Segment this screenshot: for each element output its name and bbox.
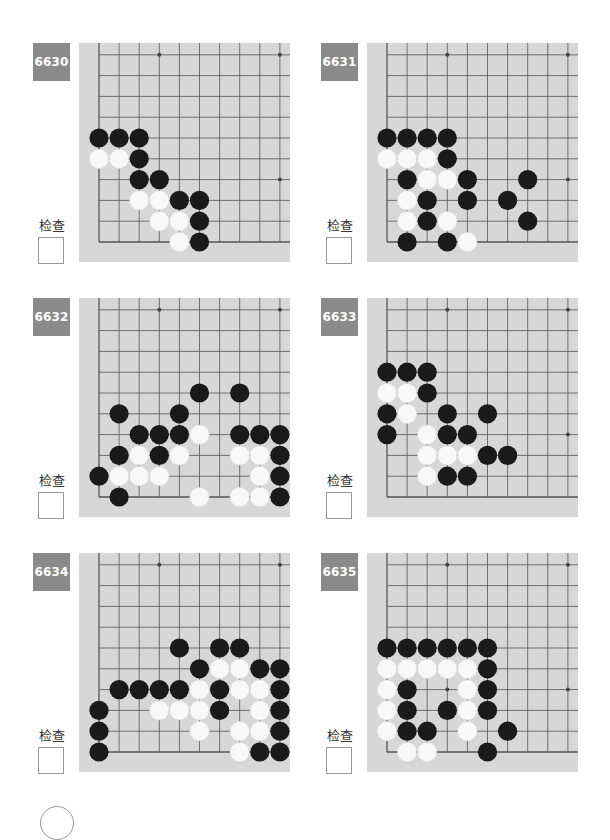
- white-stone: [190, 701, 209, 720]
- black-stone: [418, 128, 437, 147]
- white-stone: [418, 742, 437, 761]
- star-point: [566, 308, 570, 312]
- star-point: [157, 563, 161, 567]
- black-stone: [398, 170, 417, 189]
- problem-panel: 6632检查: [33, 298, 303, 520]
- white-stone: [110, 149, 129, 168]
- black-stone: [230, 638, 249, 657]
- black-stone: [438, 701, 457, 720]
- go-board-grid: [79, 43, 290, 262]
- black-stone: [270, 722, 289, 741]
- black-stone: [130, 128, 149, 147]
- go-board-grid: [79, 553, 290, 772]
- black-stone: [270, 680, 289, 699]
- black-stone: [130, 425, 149, 444]
- star-point: [566, 433, 570, 437]
- go-board-grid: [367, 553, 578, 772]
- black-stone: [377, 638, 396, 657]
- check-checkbox[interactable]: [326, 492, 352, 519]
- white-stone: [250, 701, 269, 720]
- page-circle-mark: [40, 806, 74, 840]
- white-stone: [230, 659, 249, 678]
- black-stone: [438, 232, 457, 251]
- white-stone: [377, 722, 396, 741]
- check-checkbox[interactable]: [38, 747, 64, 774]
- go-board: [79, 298, 290, 517]
- star-point: [445, 688, 449, 692]
- white-stone: [150, 212, 169, 231]
- white-stone: [458, 232, 477, 251]
- white-stone: [230, 742, 249, 761]
- black-stone: [130, 680, 149, 699]
- white-stone: [458, 446, 477, 465]
- black-stone: [398, 363, 417, 382]
- black-stone: [89, 722, 108, 741]
- white-stone: [438, 659, 457, 678]
- black-stone: [270, 487, 289, 506]
- white-stone: [458, 701, 477, 720]
- black-stone: [377, 425, 396, 444]
- white-stone: [438, 170, 457, 189]
- black-stone: [518, 170, 537, 189]
- black-stone: [170, 191, 189, 210]
- black-stone: [190, 659, 209, 678]
- problem-panel: 6633检查: [321, 298, 591, 520]
- white-stone: [110, 467, 129, 486]
- black-stone: [150, 170, 169, 189]
- go-board: [79, 43, 290, 262]
- white-stone: [130, 446, 149, 465]
- go-board: [367, 553, 578, 772]
- white-stone: [418, 149, 437, 168]
- white-stone: [230, 446, 249, 465]
- white-stone: [89, 149, 108, 168]
- check-checkbox[interactable]: [38, 492, 64, 519]
- star-point: [278, 53, 282, 57]
- black-stone: [377, 404, 396, 423]
- white-stone: [130, 467, 149, 486]
- black-stone: [210, 638, 229, 657]
- black-stone: [230, 383, 249, 402]
- black-stone: [89, 701, 108, 720]
- black-stone: [170, 425, 189, 444]
- check-checkbox[interactable]: [38, 237, 64, 264]
- black-stone: [478, 742, 497, 761]
- black-stone: [458, 170, 477, 189]
- black-stone: [190, 232, 209, 251]
- white-stone: [170, 232, 189, 251]
- white-stone: [458, 659, 477, 678]
- black-stone: [478, 659, 497, 678]
- problem-number-badge: 6633: [321, 298, 358, 336]
- black-stone: [270, 425, 289, 444]
- black-stone: [438, 128, 457, 147]
- black-stone: [398, 680, 417, 699]
- black-stone: [150, 680, 169, 699]
- white-stone: [210, 659, 229, 678]
- black-stone: [170, 680, 189, 699]
- go-board: [79, 553, 290, 772]
- black-stone: [89, 128, 108, 147]
- white-stone: [418, 425, 437, 444]
- black-stone: [518, 212, 537, 231]
- black-stone: [250, 659, 269, 678]
- white-stone: [418, 467, 437, 486]
- black-stone: [458, 467, 477, 486]
- black-stone: [438, 467, 457, 486]
- white-stone: [438, 446, 457, 465]
- white-stone: [398, 149, 417, 168]
- black-stone: [110, 487, 129, 506]
- black-stone: [458, 425, 477, 444]
- black-stone: [398, 638, 417, 657]
- white-stone: [150, 467, 169, 486]
- white-stone: [377, 659, 396, 678]
- check-checkbox[interactable]: [326, 747, 352, 774]
- white-stone: [170, 701, 189, 720]
- white-stone: [190, 680, 209, 699]
- white-stone: [250, 487, 269, 506]
- white-stone: [398, 191, 417, 210]
- problem-number-badge: 6632: [33, 298, 70, 336]
- white-stone: [458, 680, 477, 699]
- white-stone: [458, 722, 477, 741]
- white-stone: [377, 383, 396, 402]
- check-checkbox[interactable]: [326, 237, 352, 264]
- white-stone: [170, 446, 189, 465]
